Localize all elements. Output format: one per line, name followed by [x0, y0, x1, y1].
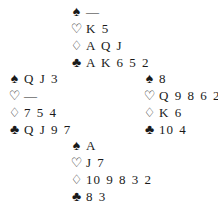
east-clubs-cards: 10 4 — [159, 121, 187, 138]
west-clubs-row: ♣ Q J 9 7 — [8, 121, 71, 138]
spade-icon: ♠ — [70, 137, 83, 154]
north-diamonds-row: ♢ A Q J — [70, 37, 150, 54]
south-hand: ♠ A ♡ J 7 ♢ 10 9 8 3 2 ♣ 8 3 — [70, 137, 152, 204]
diamond-icon: ♢ — [8, 104, 21, 121]
spade-icon: ♠ — [8, 70, 21, 87]
south-spades-row: ♠ A — [70, 137, 152, 154]
club-icon: ♣ — [143, 121, 156, 138]
south-clubs-cards: 8 3 — [86, 188, 106, 204]
north-spades-cards: — — [86, 3, 100, 20]
diamond-icon: ♢ — [70, 37, 83, 54]
club-icon: ♣ — [70, 188, 83, 204]
south-diamonds-row: ♢ 10 9 8 3 2 — [70, 171, 152, 188]
diamond-icon: ♢ — [70, 171, 83, 188]
north-hearts-cards: K 5 — [86, 20, 109, 37]
heart-icon: ♡ — [70, 20, 83, 37]
south-clubs-row: ♣ 8 3 — [70, 188, 152, 204]
east-diamonds-cards: K 6 — [159, 104, 182, 121]
south-hearts-cards: J 7 — [86, 154, 105, 171]
east-hearts-cards: Q 9 8 6 2 — [159, 87, 218, 104]
east-clubs-row: ♣ 10 4 — [143, 121, 218, 138]
north-clubs-row: ♣ A K 6 5 2 — [70, 54, 150, 71]
west-spades-cards: Q J 3 — [24, 70, 58, 87]
east-spades-cards: 8 — [159, 70, 167, 87]
west-diamonds-row: ♢ 7 5 4 — [8, 104, 71, 121]
south-spades-cards: A — [86, 137, 96, 154]
north-hand: ♠ — ♡ K 5 ♢ A Q J ♣ A K 6 5 2 — [70, 3, 150, 71]
north-spades-row: ♠ — — [70, 3, 150, 20]
east-diamonds-row: ♢ K 6 — [143, 104, 218, 121]
east-spades-row: ♠ 8 — [143, 70, 218, 87]
west-clubs-cards: Q J 9 7 — [24, 121, 71, 138]
west-hearts-cards: — — [24, 87, 38, 104]
west-diamonds-cards: 7 5 4 — [24, 104, 57, 121]
club-icon: ♣ — [8, 121, 21, 138]
west-spades-row: ♠ Q J 3 — [8, 70, 71, 87]
east-hearts-row: ♡ Q 9 8 6 2 — [143, 87, 218, 104]
west-hearts-row: ♡ — — [8, 87, 71, 104]
north-hearts-row: ♡ K 5 — [70, 20, 150, 37]
club-icon: ♣ — [70, 54, 83, 71]
heart-icon: ♡ — [8, 87, 21, 104]
spade-icon: ♠ — [143, 70, 156, 87]
spade-icon: ♠ — [70, 3, 83, 20]
east-hand: ♠ 8 ♡ Q 9 8 6 2 ♢ K 6 ♣ 10 4 — [143, 70, 218, 138]
south-hearts-row: ♡ J 7 — [70, 154, 152, 171]
heart-icon: ♡ — [70, 154, 83, 171]
west-hand: ♠ Q J 3 ♡ — ♢ 7 5 4 ♣ Q J 9 7 — [8, 70, 71, 138]
north-diamonds-cards: A Q J — [86, 37, 123, 54]
diamond-icon: ♢ — [143, 104, 156, 121]
south-diamonds-cards: 10 9 8 3 2 — [86, 171, 152, 188]
north-clubs-cards: A K 6 5 2 — [86, 54, 150, 71]
heart-icon: ♡ — [143, 87, 156, 104]
